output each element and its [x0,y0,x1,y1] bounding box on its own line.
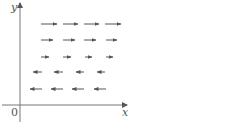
y-axis-label: y [11,2,17,13]
vector-arrows [30,24,121,89]
vector-field-plot [0,0,225,129]
vector-field-diagram: y x 0 [0,0,225,129]
x-axis-label: x [122,107,128,118]
origin-label: 0 [11,107,18,118]
